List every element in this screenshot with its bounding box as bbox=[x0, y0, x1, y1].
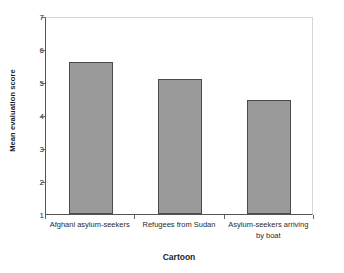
bar[interactable] bbox=[158, 79, 202, 214]
x-category-label: Refugees from Sudan bbox=[128, 220, 229, 231]
x-category-label-line: Refugees from Sudan bbox=[128, 220, 229, 231]
x-axis-title: Cartoon bbox=[45, 252, 313, 262]
bar-slot bbox=[135, 18, 224, 214]
plot-area bbox=[45, 17, 313, 215]
x-tick-mark bbox=[134, 215, 135, 219]
y-tick-label: 1 bbox=[14, 211, 44, 220]
y-tick-label: 4 bbox=[14, 112, 44, 121]
x-category-labels: Afghani asylum-seekersRefugees from Suda… bbox=[45, 220, 313, 252]
y-tick-label: 3 bbox=[14, 145, 44, 154]
bar-chart-figure: Mean evaluation score 1234567 Afghani as… bbox=[0, 0, 344, 273]
bars-layer bbox=[46, 18, 312, 214]
y-tick-label: 5 bbox=[14, 79, 44, 88]
x-category-label-line: Afghani asylum-seekers bbox=[39, 220, 140, 231]
x-category-label-line: Asylum-seekers arriving bbox=[218, 220, 319, 231]
x-tick-mark bbox=[224, 215, 225, 219]
y-tick-label: 7 bbox=[14, 13, 44, 22]
y-tick-label: 6 bbox=[14, 46, 44, 55]
x-category-label-line: by boat bbox=[218, 231, 319, 242]
x-category-label: Afghani asylum-seekers bbox=[39, 220, 140, 231]
bar-slot bbox=[225, 18, 314, 214]
x-category-label: Asylum-seekers arrivingby boat bbox=[218, 220, 319, 241]
bar[interactable] bbox=[247, 100, 291, 214]
y-axis-title: Mean evaluation score bbox=[4, 0, 20, 220]
y-tick-label: 2 bbox=[14, 178, 44, 187]
x-tick-mark bbox=[45, 215, 46, 219]
bar[interactable] bbox=[69, 62, 113, 214]
x-tick-mark bbox=[313, 215, 314, 219]
bar-slot bbox=[46, 18, 135, 214]
